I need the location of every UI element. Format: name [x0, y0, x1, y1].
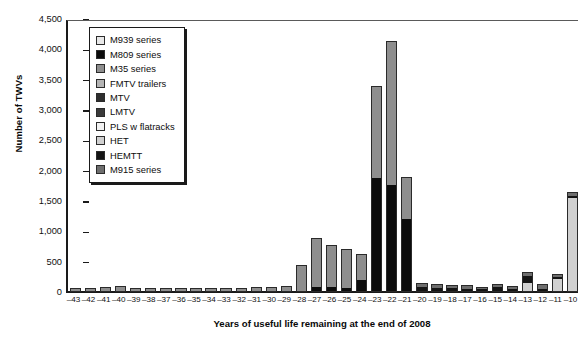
bar-group	[327, 246, 336, 291]
bar-group	[523, 273, 532, 291]
legend-item[interactable]: HEMTT	[96, 148, 175, 162]
bar-segment	[508, 289, 517, 291]
bar-segment	[297, 266, 306, 291]
bar-segment	[387, 185, 396, 291]
bar-segment	[327, 246, 336, 287]
legend-label: HEMTT	[110, 151, 142, 160]
bar-segment	[447, 288, 456, 291]
y-tick-label: 3,000	[18, 106, 62, 115]
bar-group	[267, 288, 276, 291]
y-tick-label: 2,500	[18, 136, 62, 145]
bar-segment	[176, 289, 185, 291]
bar-group	[538, 285, 547, 291]
legend-swatch-icon	[96, 36, 105, 45]
y-tick-label: 4,000	[18, 45, 62, 54]
bar-segment	[538, 289, 547, 291]
y-tick-label: 4,500	[18, 15, 62, 24]
bar-group	[221, 289, 230, 291]
bar-group	[252, 288, 261, 291]
legend-item[interactable]: M809 series	[96, 47, 175, 61]
bar-segment	[101, 288, 110, 291]
bar-segment	[417, 287, 426, 291]
legend-label: M35 series	[110, 64, 156, 73]
legend-label: M809 series	[110, 50, 161, 59]
legend-item[interactable]: PLS w flatracks	[96, 119, 175, 133]
x-axis-title: Years of useful life remaining at the en…	[66, 318, 578, 329]
bar-segment	[161, 289, 170, 291]
bar-group	[462, 286, 471, 291]
bar-group	[116, 287, 125, 291]
bar-segment	[568, 198, 577, 291]
bar-group	[191, 289, 200, 291]
bar-group	[146, 289, 155, 291]
bar-group	[568, 193, 577, 291]
bar-segment	[372, 87, 381, 178]
legend-item[interactable]: M915 series	[96, 163, 175, 177]
x-axis-ticks: –43–42–41–40–39–38–37–36–35–34–33–32–31–…	[66, 296, 578, 312]
legend-item[interactable]: FMTV trailers	[96, 76, 175, 90]
bar-segment	[327, 287, 336, 291]
legend-swatch-icon	[96, 151, 105, 160]
legend-item[interactable]: M939 series	[96, 33, 175, 47]
legend-swatch-icon	[96, 50, 105, 59]
bar-group	[402, 178, 411, 291]
bar-segment	[357, 255, 366, 280]
y-tick-label: 1,500	[18, 197, 62, 206]
legend-item[interactable]: MTV	[96, 91, 175, 105]
bar-group	[161, 289, 170, 291]
legend-swatch-icon	[96, 165, 105, 174]
bar-segment	[131, 289, 140, 291]
y-tick-label: 1,000	[18, 227, 62, 236]
bar-group	[432, 285, 441, 291]
bar-segment	[312, 239, 321, 287]
bar-group	[237, 289, 246, 291]
legend-swatch-icon	[96, 108, 105, 117]
legend-label: LMTV	[110, 107, 135, 116]
legend-label: PLS w flatracks	[110, 122, 175, 131]
bar-group	[508, 287, 517, 291]
bar-group	[387, 42, 396, 291]
bar-segment	[116, 287, 125, 291]
legend-label: FMTV trailers	[110, 79, 166, 88]
y-tick-label: 0	[18, 288, 62, 297]
bar-group	[342, 250, 351, 291]
legend-item[interactable]: HET	[96, 134, 175, 148]
bar-segment	[206, 289, 215, 291]
bar-segment	[342, 250, 351, 288]
bar-segment	[221, 289, 230, 291]
bar-segment	[402, 219, 411, 291]
bar-segment	[402, 178, 411, 219]
bar-segment	[523, 283, 532, 291]
legend-item[interactable]: M35 series	[96, 62, 175, 76]
legend-label: M915 series	[110, 165, 161, 174]
bar-segment	[252, 288, 261, 291]
legend-label: M939 series	[110, 35, 161, 44]
bar-segment	[146, 289, 155, 291]
y-axis-ticks: 4,5004,0003,5003,0002,5002,0001,5001,000…	[18, 0, 62, 340]
y-tick-label: 500	[18, 258, 62, 267]
bar-group	[493, 285, 502, 291]
bar-group	[282, 287, 291, 291]
bar-group	[372, 87, 381, 291]
legend-label: MTV	[110, 93, 130, 102]
bar-segment	[477, 289, 486, 291]
bar-segment	[462, 289, 471, 291]
bar-segment	[71, 289, 80, 291]
bar-segment	[342, 288, 351, 291]
y-tick-label: 3,500	[18, 76, 62, 85]
bar-group	[86, 289, 95, 291]
legend-swatch-icon	[96, 64, 105, 73]
legend-label: HET	[110, 136, 129, 145]
bar-segment	[493, 287, 502, 291]
bar-segment	[523, 276, 532, 283]
bar-group	[71, 289, 80, 291]
legend-item[interactable]: LMTV	[96, 105, 175, 119]
legend: M939 seriesM809 seriesM35 seriesFMTV tra…	[89, 27, 185, 183]
bar-segment	[312, 287, 321, 291]
legend-swatch-icon	[96, 122, 105, 131]
bar-group	[357, 255, 366, 291]
y-tick-label: 2,000	[18, 167, 62, 176]
bar-group	[553, 275, 562, 291]
bar-segment	[553, 279, 562, 291]
x-tick-label: –10	[561, 296, 580, 304]
